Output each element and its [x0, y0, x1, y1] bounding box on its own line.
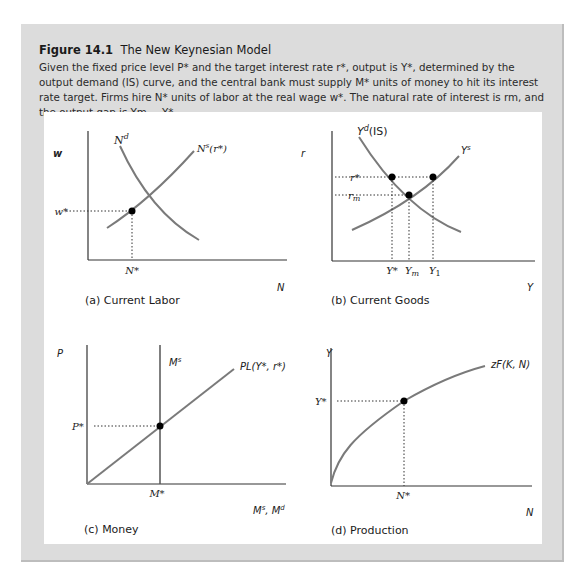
chart-current-labor: w N Nd Ns(r*) w* N* (a) Current Labor — [53, 131, 287, 307]
chart-title: (b) Current Goods — [331, 294, 430, 307]
chart-money: P Ms, Md Ms PL(Y*, r*) P* M* (c) Money — [57, 345, 286, 536]
x-axis-label: Y — [527, 282, 534, 293]
y-tick-label: w* — [54, 206, 68, 217]
x-axis-label: N — [277, 282, 285, 293]
y-tick-label: P* — [71, 421, 84, 432]
svg-text:Ms, Md: Ms, Md — [253, 504, 285, 516]
chart-current-goods: r Y Yd(IS) Ys r* rm Y* Ym Y1 (b) Current… — [301, 124, 535, 307]
y-tick-label: r* — [350, 172, 360, 183]
curve-label: M — [169, 357, 178, 368]
production-function-curve — [331, 366, 485, 483]
curve-label: zF(K, N) — [490, 359, 530, 370]
labor-supply-curve — [107, 151, 194, 228]
svg-text:Y1: Y1 — [429, 265, 441, 278]
svg-text:Ys: Ys — [461, 144, 471, 156]
equilibrium-point — [129, 208, 136, 215]
equilibrium-point — [401, 398, 408, 405]
supply-point — [430, 174, 437, 181]
y-axis-label: Y — [326, 348, 333, 359]
y-axis-label: w — [53, 148, 63, 159]
equilibrium-point — [157, 423, 164, 430]
natural-rate-point — [406, 192, 413, 199]
y-tick-label: Y* — [315, 396, 327, 407]
chart-title: (a) Current Labor — [85, 294, 180, 307]
svg-text:Ns(r*): Ns(r*) — [196, 142, 227, 154]
x-tick-label: Y* — [386, 265, 398, 276]
svg-text:Nd: Nd — [113, 132, 129, 147]
svg-text:rm: rm — [348, 190, 361, 203]
target-point — [389, 174, 396, 181]
x-tick-label: N* — [124, 265, 139, 276]
svg-text:Ym: Ym — [405, 265, 420, 278]
output-demand-curve — [359, 137, 461, 232]
x-tick-label: M* — [148, 488, 164, 499]
curve-label: N — [113, 134, 124, 147]
figure-graphs: w N Nd Ns(r*) w* N* (a) Current Labor r … — [0, 0, 588, 586]
y-axis-label: r — [301, 148, 306, 159]
x-axis-label: M — [253, 505, 262, 516]
chart-title: (c) Money — [84, 523, 139, 536]
output-supply-curve — [352, 156, 459, 230]
curve-label: PL(Y*, r*) — [240, 361, 286, 372]
x-tick-label: N* — [395, 490, 410, 501]
chart-production: Y N zF(K, N) Y* N* (d) Production — [315, 348, 534, 537]
svg-text:Yd(IS): Yd(IS) — [357, 124, 388, 138]
chart-title: (d) Production — [331, 524, 409, 537]
svg-text:Ms: Ms — [169, 356, 182, 368]
x-axis-label: N — [526, 507, 534, 518]
y-axis-label: P — [57, 348, 64, 359]
